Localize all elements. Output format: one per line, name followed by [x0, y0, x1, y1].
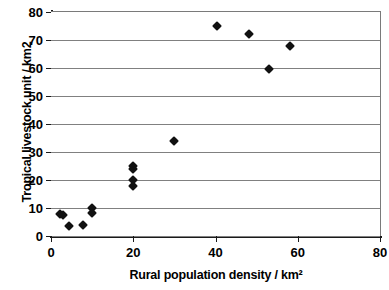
scatter-chart: Tropical livestock unit / km2 0102030405…	[0, 0, 389, 290]
y-axis-tick-label: 80	[29, 5, 43, 20]
data-point	[87, 208, 97, 218]
y-axis-tick-label: 20	[29, 173, 43, 188]
x-axis-tick	[380, 236, 381, 242]
x-axis-tick	[51, 236, 52, 242]
y-axis-tick-label: 0	[36, 229, 43, 244]
gridline-horizontal	[51, 96, 380, 97]
plot-area: 01020304050607080020406080	[51, 11, 381, 236]
y-axis-tick-label: 60	[29, 61, 43, 76]
y-axis-tick	[46, 180, 51, 181]
x-axis-tick-label: 0	[47, 245, 54, 260]
data-point	[264, 64, 274, 74]
y-axis-tick-label: 40	[29, 117, 43, 132]
x-axis-tick-label: 80	[373, 245, 387, 260]
gridline-horizontal	[51, 180, 380, 181]
y-axis-tick-label: 10	[29, 201, 43, 216]
x-axis-tick-label: 60	[291, 245, 305, 260]
y-axis-tick-label: 30	[29, 145, 43, 160]
x-axis-tick	[133, 236, 134, 242]
x-axis-tick-label: 20	[126, 245, 140, 260]
y-axis-tick-label: 70	[29, 33, 43, 48]
data-point	[244, 29, 254, 39]
y-axis-tick	[46, 68, 51, 69]
gridline-horizontal	[51, 208, 380, 209]
y-axis-tick	[46, 12, 51, 13]
data-point	[212, 21, 222, 31]
data-point	[285, 41, 295, 51]
x-axis-tick-label: 40	[208, 245, 222, 260]
data-point	[169, 136, 179, 146]
gridline-horizontal	[51, 40, 380, 41]
data-point	[78, 220, 88, 230]
y-axis-tick	[46, 124, 51, 125]
y-axis-tick	[46, 40, 51, 41]
x-axis-tick	[298, 236, 299, 242]
gridline-horizontal	[51, 124, 380, 125]
y-axis-tick-label: 50	[29, 89, 43, 104]
data-point	[64, 222, 74, 232]
y-axis-tick	[46, 208, 51, 209]
x-axis-title: Rural population density / km²	[51, 268, 381, 282]
x-axis-tick	[216, 236, 217, 242]
gridline-horizontal	[51, 152, 380, 153]
y-axis-tick	[46, 152, 51, 153]
gridline-horizontal	[51, 68, 380, 69]
y-axis-tick	[46, 96, 51, 97]
